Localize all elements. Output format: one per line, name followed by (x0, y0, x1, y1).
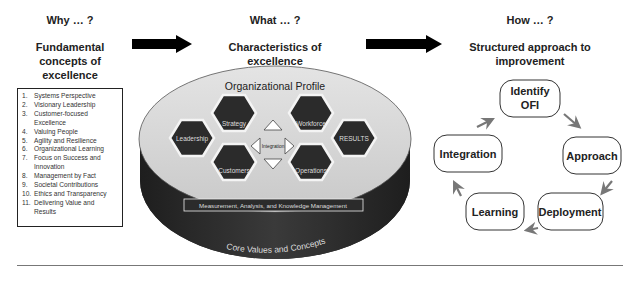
cycle-arrow-icon (603, 181, 612, 192)
cycle-arrow-icon (455, 184, 461, 196)
cycle-arrow-icon (477, 120, 491, 127)
cycle-arrow-icon (564, 114, 578, 126)
identify-label-line: Identify (510, 85, 550, 97)
improvement-cycle: Identify OFI Approach Deployment Learnin… (0, 0, 640, 282)
learning-label: Learning (472, 206, 518, 218)
cycle-arrow-icon (528, 228, 538, 230)
approach-label: Approach (566, 150, 618, 162)
identify-label-line: OFI (521, 99, 539, 111)
divider-line (17, 265, 623, 266)
integration-label: Integration (440, 148, 497, 160)
deployment-label: Deployment (539, 206, 602, 218)
